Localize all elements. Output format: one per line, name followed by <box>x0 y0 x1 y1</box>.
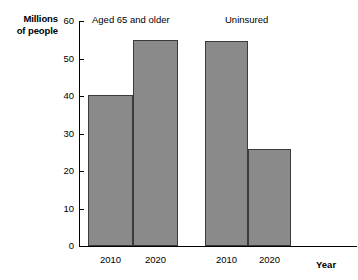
y-axis-title-line-1: Millions <box>0 13 58 25</box>
y-axis-tick-label: 0 <box>54 241 74 251</box>
y-axis-tick <box>79 96 84 97</box>
y-axis-title-line-2: of people <box>0 25 58 37</box>
bar[interactable] <box>133 40 178 246</box>
y-axis-tick <box>79 171 84 172</box>
bar[interactable] <box>88 95 133 246</box>
y-axis-tick <box>79 59 84 60</box>
y-axis-title: Millions of people <box>0 13 58 36</box>
y-axis-tick <box>79 21 84 22</box>
y-axis-tick-label: 60 <box>54 16 74 26</box>
x-axis-category-label: 2010 <box>88 254 133 265</box>
group-label: Aged 65 and older <box>92 14 170 25</box>
bar[interactable] <box>205 41 248 247</box>
y-axis-tick-label: 30 <box>54 129 74 139</box>
x-axis-category-label: 2020 <box>133 254 178 265</box>
x-axis-category-label: 2020 <box>248 254 291 265</box>
y-axis-tick-label: 20 <box>54 166 74 176</box>
x-axis-line <box>79 246 357 247</box>
y-axis-tick <box>79 134 84 135</box>
x-axis-category-label: 2010 <box>205 254 248 265</box>
y-axis-tick-label: 10 <box>54 204 74 214</box>
group-label: Uninsured <box>225 14 268 25</box>
y-axis-tick <box>79 209 84 210</box>
y-axis-tick-label: 50 <box>54 54 74 64</box>
bar-chart: Millions of people 0102030405060 Aged 65… <box>0 0 358 280</box>
y-axis-tick-label: 40 <box>54 91 74 101</box>
bar[interactable] <box>248 149 291 247</box>
x-axis-title: Year <box>316 259 336 270</box>
